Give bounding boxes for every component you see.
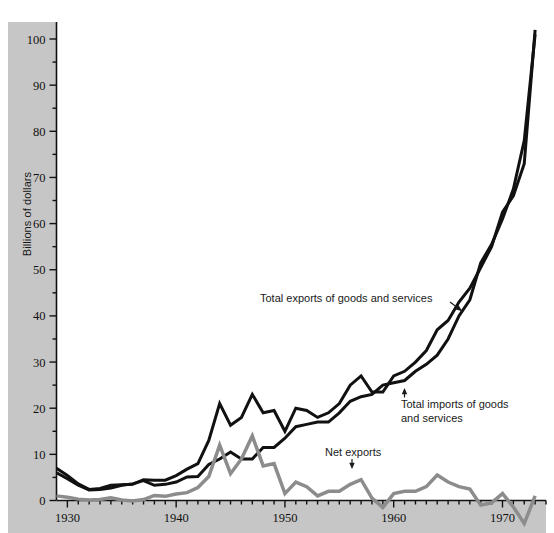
imports-pointer-arrowhead <box>402 388 407 394</box>
y-tick-label: 40 <box>33 309 46 323</box>
y-tick-label: 0 <box>39 494 45 508</box>
x-tick-label: 1940 <box>164 511 189 525</box>
x-tick-label: 1950 <box>272 511 297 525</box>
y-tick-label: 30 <box>33 356 46 370</box>
imports-annotation-label-line1: Total imports of goods <box>401 398 509 410</box>
series-line-exports <box>57 30 536 490</box>
chart-figure: Billions of dollars 01020304050607080901… <box>0 0 554 533</box>
y-tick-label: 100 <box>27 33 46 47</box>
net-exports-annotation-label: Net exports <box>325 446 382 458</box>
y-tick-label: 20 <box>33 402 46 416</box>
y-tick-label: 90 <box>33 79 46 93</box>
net-exports-pointer-arrowhead <box>349 463 354 469</box>
y-axis-tick-labels: 0102030405060708090100 <box>27 33 46 509</box>
exports-annotation-label: Total exports of goods and services <box>260 292 433 304</box>
data-series-group <box>57 30 536 524</box>
y-tick-label: 80 <box>33 125 46 139</box>
annotation-imports: Total imports of goods and services <box>401 388 509 424</box>
x-tick-label: 1930 <box>55 511 80 525</box>
axes-group: 0102030405060708090100 19301940195019601… <box>27 22 546 525</box>
x-tick-label: 1970 <box>490 511 515 525</box>
imports-annotation-label-line2: and services <box>401 412 463 424</box>
line-chart-plot: 0102030405060708090100 19301940195019601… <box>0 0 554 533</box>
y-tick-label: 50 <box>33 263 46 277</box>
annotation-net-exports: Net exports <box>325 446 382 469</box>
x-tick-label: 1960 <box>381 511 406 525</box>
y-tick-label: 70 <box>33 171 46 185</box>
annotation-exports: Total exports of goods and services <box>260 292 462 311</box>
y-tick-label: 10 <box>33 448 46 462</box>
x-axis-tick-labels: 19301940195019601970 <box>55 511 515 525</box>
y-tick-label: 60 <box>33 217 46 231</box>
y-axis-ticks <box>50 39 57 501</box>
series-line-imports <box>57 34 536 490</box>
